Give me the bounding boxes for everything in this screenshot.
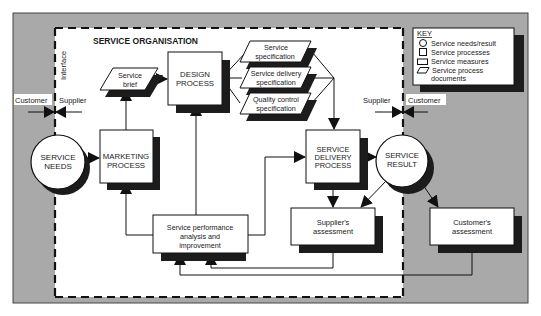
right-supplier-label: Supplier — [363, 96, 391, 105]
svg-text:Service: Service — [118, 71, 142, 80]
left-customer-label: Customer — [15, 96, 48, 105]
svg-text:analysis and: analysis and — [180, 232, 220, 241]
svg-text:Service: Service — [264, 43, 288, 52]
service-performance-node: Service performance analysis and improve… — [153, 215, 248, 261]
svg-text:specification: specification — [256, 104, 296, 113]
svg-text:DESIGN: DESIGN — [180, 70, 210, 79]
svg-text:documents: documents — [431, 74, 467, 83]
svg-text:Quality control: Quality control — [253, 95, 299, 104]
svg-text:NEEDS: NEEDS — [44, 162, 72, 171]
svg-text:Service measures: Service measures — [431, 57, 489, 66]
svg-text:assessment: assessment — [452, 227, 493, 236]
legend-key: KEY Service needs/result Service process… — [413, 28, 524, 92]
service-delivery-process-node: SERVICE DELIVERY PROCESS — [306, 130, 368, 190]
svg-text:assessment: assessment — [313, 227, 354, 236]
svg-text:SERVICE: SERVICE — [385, 151, 419, 160]
quality-control-specification-document: Quality control specification — [240, 93, 317, 121]
right-customer-label: Customer — [408, 96, 441, 105]
svg-text:Service delivery: Service delivery — [251, 69, 302, 78]
svg-text:specification: specification — [255, 52, 295, 61]
svg-text:PROCESS: PROCESS — [107, 161, 145, 170]
svg-text:PROCESS: PROCESS — [176, 79, 214, 88]
svg-text:Customer's: Customer's — [453, 218, 491, 227]
svg-text:Service performance: Service performance — [167, 223, 233, 232]
service-delivery-specification-document: Service delivery specification — [240, 67, 317, 95]
svg-text:Service needs/result: Service needs/result — [431, 39, 496, 48]
svg-text:brief: brief — [123, 80, 137, 89]
svg-text:Service processes: Service processes — [431, 48, 490, 57]
svg-text:Supplier's: Supplier's — [317, 218, 350, 227]
left-supplier-label: Supplier — [59, 96, 87, 105]
suppliers-assessment-node: Supplier's assessment — [291, 208, 383, 253]
svg-text:improvement: improvement — [179, 241, 221, 250]
marketing-process-node: MARKETING PROCESS — [100, 130, 160, 190]
design-process-node: DESIGN PROCESS — [168, 52, 230, 113]
legend-title: KEY — [417, 29, 432, 38]
diagram-title: SERVICE ORGANISATION — [93, 36, 198, 46]
service-quality-loop-diagram: SERVICE ORGANISATION Interface Customer … — [0, 0, 541, 316]
interface-label: Interface — [59, 51, 68, 80]
svg-text:PROCESS: PROCESS — [315, 161, 352, 170]
service-specification-document: Service specification — [240, 41, 317, 69]
svg-text:RESULT: RESULT — [387, 160, 417, 169]
customers-assessment-node: Customer's assessment — [430, 208, 522, 253]
svg-text:MARKETING: MARKETING — [103, 152, 149, 161]
svg-text:specification: specification — [256, 78, 296, 87]
svg-text:SERVICE: SERVICE — [41, 153, 76, 162]
